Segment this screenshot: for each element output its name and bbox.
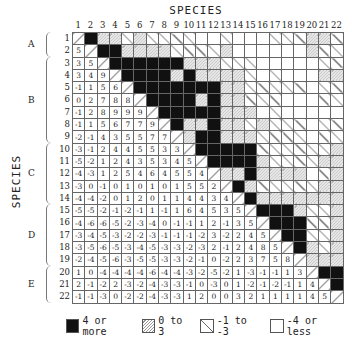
value-cell: 6	[109, 82, 121, 94]
value-cell: -4	[85, 192, 97, 204]
value-cell: 5	[257, 229, 269, 241]
value-cell: 6	[109, 119, 121, 131]
row-header: 1	[54, 32, 70, 44]
value-cell: -4	[146, 217, 158, 229]
value-cell: -4	[171, 266, 183, 278]
pattern-cell	[269, 69, 281, 81]
value-cell: -1	[257, 266, 269, 278]
value-cell: 1	[269, 291, 281, 303]
pattern-cell	[306, 192, 318, 204]
value-cell: 0	[109, 180, 121, 192]
diagonal-cell	[306, 266, 318, 278]
value-cell: -4	[85, 254, 97, 266]
pattern-cell	[306, 33, 318, 45]
pattern-cell	[146, 69, 158, 81]
pattern-cell	[146, 33, 158, 45]
pattern-cell	[282, 229, 294, 241]
value-cell: -4	[73, 217, 85, 229]
value-cell: 3	[232, 217, 244, 229]
value-cell: -5	[73, 205, 85, 217]
pattern-cell	[294, 45, 306, 57]
value-cell: 4	[183, 192, 195, 204]
pattern-cell	[318, 155, 330, 167]
value-cell: -3	[159, 278, 171, 290]
pattern-cell	[183, 69, 195, 81]
pattern-cell	[171, 57, 183, 69]
value-cell: 1	[282, 291, 294, 303]
pattern-cell	[306, 217, 318, 229]
row-header: 22	[54, 290, 70, 302]
group-bracket: A	[22, 32, 52, 57]
value-cell: -2	[85, 155, 97, 167]
value-cell: 3	[159, 143, 171, 155]
pattern-cell	[257, 69, 269, 81]
pattern-cell	[306, 106, 318, 118]
matrix-row: 02788	[73, 94, 344, 106]
column-header: 1	[72, 20, 84, 32]
pattern-cell	[232, 33, 244, 45]
value-cell: 5	[97, 82, 109, 94]
value-cell: -1	[220, 242, 232, 254]
pattern-cell	[331, 180, 343, 192]
pattern-cell	[282, 45, 294, 57]
value-cell: 5	[134, 131, 146, 143]
pattern-cell	[257, 168, 269, 180]
pattern-cell	[257, 119, 269, 131]
pattern-cell	[257, 57, 269, 69]
value-cell: 1	[85, 82, 97, 94]
pattern-cell	[306, 69, 318, 81]
pattern-cell	[257, 192, 269, 204]
value-cell: -2	[269, 278, 281, 290]
diagonal-cell	[183, 143, 195, 155]
pattern-cell	[208, 106, 220, 118]
row-header: 6	[54, 93, 70, 105]
value-cell: 2	[109, 168, 121, 180]
value-cell: -2	[183, 242, 195, 254]
matrix-row: 349	[73, 69, 344, 81]
pattern-cell	[331, 69, 343, 81]
value-cell: 8	[97, 106, 109, 118]
value-cell: -5	[109, 217, 121, 229]
value-cell: -4	[73, 168, 85, 180]
pattern-cell	[331, 266, 343, 278]
diagonal-cell	[97, 57, 109, 69]
value-cell: 1	[183, 291, 195, 303]
value-cell: 7	[122, 119, 134, 131]
pattern-cell	[134, 69, 146, 81]
pattern-cell	[245, 155, 257, 167]
row-header: 21	[54, 278, 70, 290]
value-cell: -5	[97, 229, 109, 241]
pattern-cell	[195, 33, 207, 45]
matrix-row: 2-1-22-3-2-4-3-3-10-301-2-1-2-114	[73, 278, 344, 290]
value-cell: 1	[257, 291, 269, 303]
value-cell: 1	[171, 180, 183, 192]
pattern-cell	[282, 143, 294, 155]
value-cell: 2	[73, 278, 85, 290]
legend-item: -4 or less	[270, 315, 344, 337]
value-cell: -5	[146, 254, 158, 266]
value-cell: -3	[183, 266, 195, 278]
value-cell: -1	[85, 278, 97, 290]
pattern-cell	[294, 155, 306, 167]
value-cell: -3	[208, 278, 220, 290]
pattern-cell	[208, 82, 220, 94]
diagonal-cell	[85, 45, 97, 57]
pattern-cell	[122, 33, 134, 45]
pattern-cell	[122, 69, 134, 81]
pattern-cell	[269, 94, 281, 106]
pattern-cell	[134, 45, 146, 57]
diagonal-cell	[245, 205, 257, 217]
pattern-cell	[318, 82, 330, 94]
value-cell: 9	[146, 119, 158, 131]
pattern-cell	[269, 205, 281, 217]
pattern-cell	[109, 33, 121, 45]
pattern-cell	[232, 94, 244, 106]
row-header: 17	[54, 229, 70, 241]
matrix-row: 5	[73, 45, 344, 57]
column-header: 4	[109, 20, 121, 32]
value-cell: -1	[73, 82, 85, 94]
value-cell: -3	[171, 278, 183, 290]
pattern-cell	[306, 205, 318, 217]
pattern-cell	[183, 94, 195, 106]
value-cell: 2	[232, 242, 244, 254]
